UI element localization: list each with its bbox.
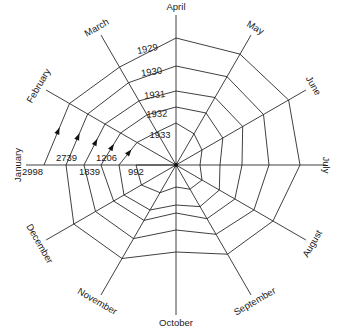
axis-may (176, 35, 251, 165)
month-label-september: September (232, 285, 278, 318)
axis-september (176, 165, 251, 295)
year-label-1933: 1933 (149, 129, 170, 140)
spiral-path (44, 38, 300, 259)
arrow-icon (54, 127, 61, 135)
spiral-chart: JanuaryFebruaryMarchAprilMayJuneJulyAugu… (0, 0, 340, 328)
january-value-labels: 2998273918391206992 (22, 152, 144, 177)
january-value-2739: 2739 (56, 152, 77, 163)
axis-june (176, 90, 306, 165)
month-label-june: June (304, 74, 324, 97)
year-label-1932: 1932 (146, 107, 168, 119)
january-value-1839: 1839 (79, 166, 100, 177)
month-label-february: February (24, 66, 53, 105)
month-label-april: April (166, 1, 185, 12)
arrow-icon (92, 138, 100, 147)
month-label-october: October (159, 317, 193, 328)
month-label-november: November (76, 285, 119, 316)
month-label-may: May (245, 18, 266, 37)
month-label-july: July (321, 157, 332, 174)
spiral-line (44, 38, 300, 259)
month-labels: JanuaryFebruaryMarchAprilMayJuneJulyAugu… (12, 1, 333, 328)
arrow-icon (108, 143, 116, 152)
axis-december (46, 165, 176, 240)
january-value-992: 992 (128, 166, 144, 177)
year-label-1931: 1931 (144, 88, 166, 101)
january-value-1206: 1206 (96, 152, 117, 163)
axis-november (101, 165, 176, 295)
axis-august (176, 165, 306, 240)
year-label-1929: 1929 (136, 41, 159, 56)
year-label-1930: 1930 (140, 65, 162, 79)
month-label-march: March (82, 16, 110, 39)
month-label-january: January (12, 148, 23, 182)
spiral-chart-svg: JanuaryFebruaryMarchAprilMayJuneJulyAugu… (0, 0, 340, 328)
month-label-december: December (24, 222, 55, 265)
arrow-icon (74, 132, 82, 140)
january-value-2998: 2998 (22, 166, 43, 177)
month-label-august: August (300, 228, 324, 259)
center-point (174, 163, 178, 167)
